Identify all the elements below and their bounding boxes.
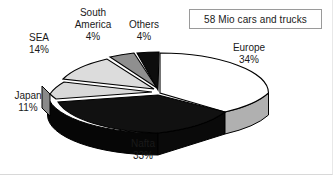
pie-label-europe-value: 34% [222,54,276,66]
pie-label-sea: SEA 14% [18,32,60,56]
pie-label-others-value: 4% [122,31,166,43]
pie-label-others: Others 4% [122,19,166,43]
pie-label-south-america-name2: America [58,19,128,31]
pie-label-south-america: South America 4% [58,7,128,43]
pie-label-europe-name: Europe [222,42,276,54]
pie-label-japan-value: 11% [4,102,52,114]
pie-label-sea-value: 14% [18,44,60,56]
pie-label-japan: Japan 11% [4,90,52,114]
chart-screenshot: 58 Mio cars and trucks [0,0,333,175]
pie-label-japan-name: Japan [4,90,52,102]
pie-label-south-america-value: 4% [58,31,128,43]
pie-label-nafta-name: Nafta [118,138,168,150]
pie-label-nafta: Nafta 33% [118,138,168,162]
pie-label-south-america-name1: South [58,7,128,19]
pie-label-others-name: Others [122,19,166,31]
pie-label-europe: Europe 34% [222,42,276,66]
pie-label-sea-name: SEA [18,32,60,44]
pie-label-nafta-value: 33% [118,150,168,162]
